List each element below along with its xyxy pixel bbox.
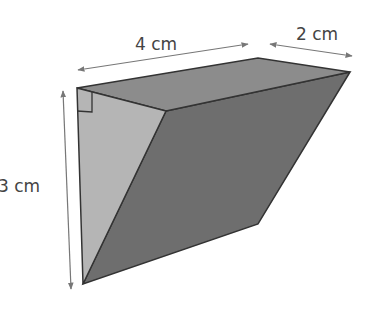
length-label: 4 cm [135, 34, 177, 54]
height-dimension-line [63, 91, 71, 289]
height-label: 3 cm [0, 176, 40, 196]
width-dimension-line [270, 44, 352, 56]
prism-diagram: 4 cm 2 cm 3 cm [0, 0, 372, 311]
width-label: 2 cm [296, 24, 338, 44]
